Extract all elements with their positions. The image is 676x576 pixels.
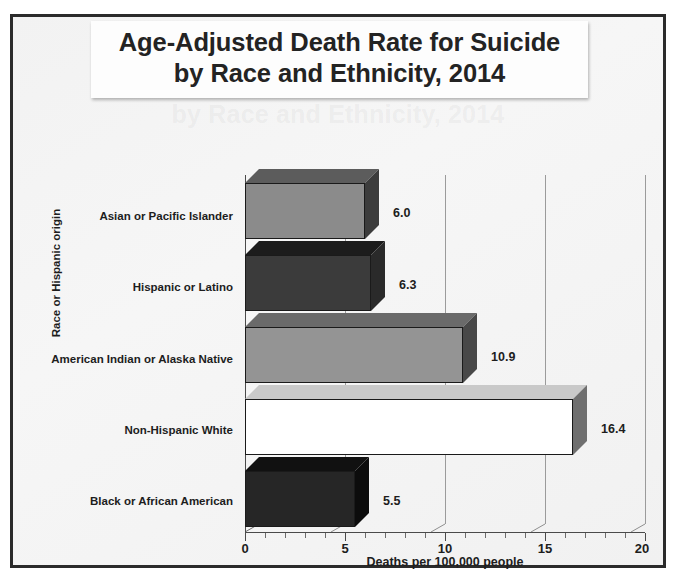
x-minor-tick-9 [425, 533, 426, 538]
x-minor-tick-6 [365, 533, 366, 538]
y-tick-label-american-indian-or-alaska-native: American Indian or Alaska Native [23, 353, 233, 365]
value-label-american-indian-or-alaska-native: 10.9 [491, 350, 515, 364]
x-minor-tick-19 [625, 533, 626, 538]
value-label-non-hispanic-white: 16.4 [601, 422, 625, 436]
x-minor-tick-14 [525, 533, 526, 538]
x-major-tick-15 [545, 533, 546, 541]
x-minor-tick-7 [385, 533, 386, 538]
y-tick-label-black-or-african-american: Black or African American [23, 495, 233, 507]
value-label-black-or-african-american: 5.5 [383, 494, 400, 508]
x-minor-tick-16 [565, 533, 566, 538]
x-major-tick-10 [445, 533, 446, 541]
bar-front-face [245, 183, 365, 239]
value-label-hispanic-or-latino: 6.3 [399, 278, 416, 292]
x-minor-tick-3 [305, 533, 306, 538]
bar-top-face [245, 313, 477, 327]
gridline-15 [545, 175, 546, 524]
chart-panel: Age-Adjusted Death Rate for Suicide by R… [10, 14, 666, 568]
y-tick-label-asian-or-pacific-islander: Asian or Pacific Islander [23, 210, 233, 222]
bar-american-indian-or-alaska-native [245, 313, 477, 383]
value-label-asian-or-pacific-islander: 6.0 [393, 206, 410, 220]
x-minor-tick-1 [265, 533, 266, 538]
bar-front-face [245, 327, 463, 383]
y-tick-label-non-hispanic-white: Non-Hispanic White [23, 424, 233, 436]
x-major-tick-5 [345, 533, 346, 541]
x-minor-tick-18 [605, 533, 606, 538]
x-major-tick-0 [245, 533, 246, 541]
chart-title-line-1: Age-Adjusted Death Rate for Suicide [99, 27, 580, 58]
x-minor-tick-11 [465, 533, 466, 538]
x-tick-label-10: 10 [425, 541, 465, 556]
chart-title-card: Age-Adjusted Death Rate for Suicide by R… [91, 21, 588, 98]
chart-screenshot: Age-Adjusted Death Rate for Suicide by R… [0, 0, 676, 576]
bar-black-or-african-american [245, 457, 369, 527]
x-major-tick-20 [645, 533, 646, 541]
x-tick-label-0: 0 [225, 541, 265, 556]
x-minor-tick-13 [505, 533, 506, 538]
bar-top-face [245, 385, 587, 399]
chart-plot: Race or Hispanic origin Asian or Pacific… [13, 17, 663, 565]
x-tick-label-5: 5 [325, 541, 365, 556]
gridline-20 [645, 175, 646, 524]
bar-top-face [245, 241, 385, 255]
bar-non-hispanic-white [245, 385, 587, 455]
bar-top-face [245, 457, 369, 471]
x-minor-tick-12 [485, 533, 486, 538]
y-axis-title: Race or Hispanic origin [50, 178, 62, 368]
chart-title-line-2: by Race and Ethnicity, 2014 [99, 58, 580, 89]
bar-hispanic-or-latino [245, 241, 385, 311]
y-tick-label-hispanic-or-latino: Hispanic or Latino [23, 281, 233, 293]
x-minor-tick-4 [325, 533, 326, 538]
x-axis-title: Deaths per 100,000 people [245, 555, 645, 569]
x-minor-tick-8 [405, 533, 406, 538]
bar-front-face [245, 399, 573, 455]
bar-front-face [245, 255, 371, 311]
x-minor-tick-17 [585, 533, 586, 538]
bar-top-face [245, 169, 379, 183]
x-tick-label-20: 20 [622, 541, 662, 556]
bar-front-face [245, 471, 355, 527]
bar-asian-or-pacific-islander [245, 169, 379, 239]
x-minor-tick-2 [285, 533, 286, 538]
x-tick-label-15: 15 [525, 541, 565, 556]
